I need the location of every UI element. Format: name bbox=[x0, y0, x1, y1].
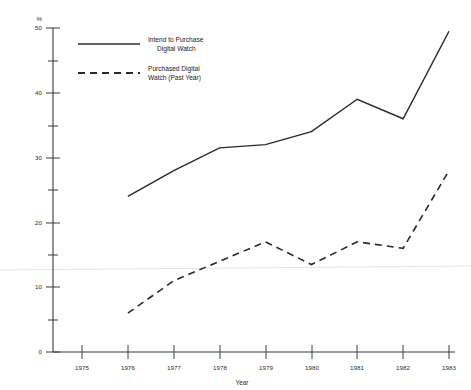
series-line-purchased-past-year bbox=[128, 171, 449, 314]
legend-item-purchased-past-year: Purchased Digital Watch (Past Year) bbox=[78, 65, 201, 82]
series-line-intend-to-purchase bbox=[128, 31, 449, 196]
x-tick-label-1981: 1981 bbox=[350, 364, 364, 371]
y-tick-label-10: 10 bbox=[35, 283, 42, 290]
legend-label-line1: Purchased Digital bbox=[148, 65, 200, 73]
legend-label-line2: Watch (Past Year) bbox=[148, 74, 201, 82]
y-tick-label-50: 50 bbox=[35, 24, 42, 31]
y-tick-label-20: 20 bbox=[35, 219, 42, 226]
x-axis-title: Year bbox=[236, 379, 250, 386]
chart-container: % 50 40 30 20 10 0 1975 1976 1977 1978 1… bbox=[0, 0, 471, 390]
x-tick-label-1978: 1978 bbox=[213, 364, 227, 371]
y-axis-unit-label: % bbox=[36, 15, 42, 22]
legend: Intend to Purchase Digital Watch Purchas… bbox=[78, 36, 204, 82]
scan-artifact-line bbox=[0, 266, 471, 270]
x-tick-label-1980: 1980 bbox=[305, 364, 319, 371]
line-chart: % 50 40 30 20 10 0 1975 1976 1977 1978 1… bbox=[0, 0, 471, 390]
y-tick-label-0: 0 bbox=[39, 348, 43, 355]
legend-label-line2: Digital Watch bbox=[157, 45, 196, 53]
x-tick-label-1976: 1976 bbox=[121, 364, 135, 371]
x-tick-label-1977: 1977 bbox=[167, 364, 181, 371]
x-tick-label-1975: 1975 bbox=[75, 364, 89, 371]
legend-label-line1: Intend to Purchase bbox=[148, 36, 204, 43]
legend-item-intend-to-purchase: Intend to Purchase Digital Watch bbox=[78, 36, 204, 53]
x-tick-label-1979: 1979 bbox=[259, 364, 273, 371]
x-tick-label-1983: 1983 bbox=[442, 364, 456, 371]
x-tick-label-1982: 1982 bbox=[396, 364, 410, 371]
y-tick-label-30: 30 bbox=[35, 154, 42, 161]
y-tick-label-40: 40 bbox=[35, 89, 42, 96]
